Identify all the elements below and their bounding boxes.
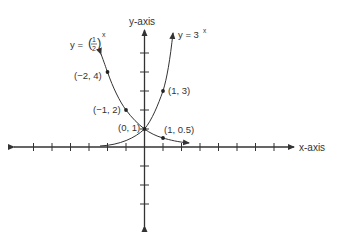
point-neg1-2 (124, 108, 128, 112)
label-half-power-x: y = ( 1 2 ) x (70, 31, 106, 52)
label-3-power-x: y = 3 x (178, 27, 207, 40)
svg-text:2: 2 (92, 45, 96, 52)
label-neg1-2: (−1, 2) (93, 104, 121, 115)
point-1-3 (161, 89, 165, 93)
exponential-graph: x-axis y-axis (−2, 4) (−1, 2) (0, 1) (1,… (0, 0, 341, 243)
point-neg2-4 (106, 70, 110, 74)
label-1-3: (1, 3) (168, 85, 190, 96)
svg-text:y = 3: y = 3 (178, 29, 199, 40)
svg-text:1: 1 (92, 36, 96, 43)
label-1-0.5: (1, 0.5) (164, 124, 194, 135)
svg-text:x: x (203, 27, 207, 34)
label-neg2-4: (−2, 4) (74, 70, 102, 81)
y-axis: y-axis (129, 16, 155, 226)
x-axis: x-axis (14, 142, 325, 153)
svg-text:x: x (102, 31, 106, 38)
svg-text:y =: y = (70, 39, 83, 50)
point-0-1 (143, 127, 147, 131)
y-axis-label: y-axis (129, 16, 155, 27)
label-0-1: (0, 1) (118, 122, 140, 133)
svg-text:): ) (97, 35, 101, 50)
point-1-0.5 (161, 136, 165, 140)
x-axis-label: x-axis (299, 142, 325, 153)
